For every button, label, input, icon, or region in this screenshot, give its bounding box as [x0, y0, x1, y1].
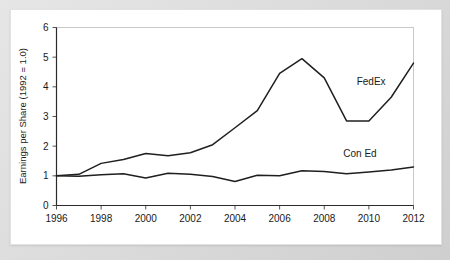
y-tick-label: 2 — [43, 141, 49, 152]
x-tick-label: 2008 — [313, 213, 336, 224]
x-tick-label: 2010 — [358, 213, 381, 224]
series-label-fedex: FedEx — [357, 76, 386, 87]
x-tick-label: 2004 — [224, 213, 247, 224]
series-label-coned: Con Ed — [343, 148, 376, 159]
y-axis-title: Earnings per Share (1992 = 1.0) — [17, 48, 28, 184]
y-tick-label: 0 — [43, 200, 49, 211]
y-tick-label: 4 — [43, 81, 49, 92]
y-tick-labels: 0123456 — [43, 22, 49, 211]
x-tick-label: 2006 — [269, 213, 292, 224]
page-background: 0123456 19961998200020022004200620082010… — [0, 0, 450, 260]
plot-area-frame — [57, 28, 414, 206]
y-tick-label: 3 — [43, 111, 49, 122]
x-axis-ticks — [57, 206, 414, 210]
x-tick-label: 1996 — [45, 213, 68, 224]
x-tick-labels: 199619982000200220042006200820102012 — [45, 213, 425, 224]
x-tick-label: 1998 — [90, 213, 113, 224]
chart-container: 0123456 19961998200020022004200620082010… — [0, 0, 450, 260]
x-tick-label: 2002 — [179, 213, 202, 224]
x-tick-label: 2012 — [402, 213, 425, 224]
line-chart: 0123456 19961998200020022004200620082010… — [0, 0, 450, 260]
x-tick-label: 2000 — [135, 213, 158, 224]
y-tick-label: 5 — [43, 52, 49, 63]
y-tick-label: 1 — [43, 170, 49, 181]
y-tick-label: 6 — [43, 22, 49, 33]
